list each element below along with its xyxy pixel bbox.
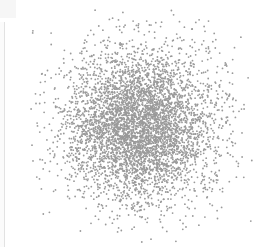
scatter-points bbox=[30, 9, 253, 243]
scatter-plot bbox=[0, 0, 260, 247]
